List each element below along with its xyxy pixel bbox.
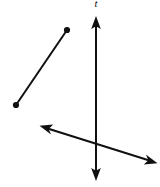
transversal-line xyxy=(40,125,158,165)
vertical-line-label: t xyxy=(94,0,98,9)
geometry-figure: t xyxy=(0,0,160,187)
line-segment-shaft xyxy=(16,30,67,105)
line-segment xyxy=(13,27,70,108)
figure-svg: t xyxy=(0,0,160,187)
transversal-line-shaft xyxy=(46,128,151,161)
line-segment-endpoint-dot-lower-left xyxy=(13,102,19,108)
line-segment-endpoint-dot-upper-right xyxy=(64,27,70,33)
vertical-line-t xyxy=(91,16,101,181)
